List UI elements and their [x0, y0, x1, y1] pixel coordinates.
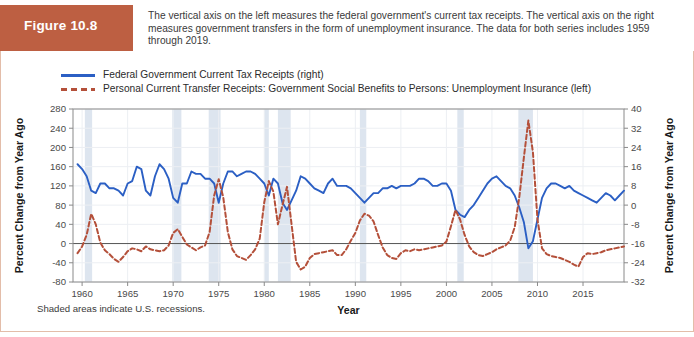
- y-axis-title-left: Percent Change from Year Ago: [13, 117, 25, 273]
- tick-label-right: 8: [631, 180, 636, 191]
- recession-band: [457, 109, 463, 282]
- tick-label-x: 1960: [71, 288, 92, 299]
- tick-label-left: 120: [50, 180, 66, 191]
- tick-label-right: 24: [631, 142, 642, 153]
- tick-label-left: 80: [55, 200, 66, 211]
- tick-label-right: -8: [631, 219, 640, 230]
- tick-label-x: 1975: [208, 288, 229, 299]
- figure-header: Figure 10.8 The vertical axis on the lef…: [0, 5, 694, 51]
- figure-number-label: Figure 10.8: [24, 18, 97, 33]
- figure-number-badge: Figure 10.8: [0, 5, 133, 51]
- tick-label-left: -40: [52, 257, 66, 268]
- y-axis-title-right: Percent Change from Year Ago: [663, 117, 675, 273]
- tick-label-right: 16: [631, 161, 642, 172]
- chart-plot: -80-4004080120160200240280-32-24-16-8081…: [1, 51, 694, 332]
- plot-frame: [73, 109, 624, 282]
- figure-caption: The vertical axis on the left measures t…: [148, 10, 682, 48]
- figure-card: Figure 10.8 The vertical axis on the lef…: [0, 5, 694, 332]
- tick-label-right: -32: [631, 276, 645, 287]
- tick-label-right: 0: [631, 200, 636, 211]
- tick-label-right: 40: [631, 103, 642, 114]
- tick-label-x: 1990: [345, 288, 366, 299]
- tick-label-left: 40: [55, 219, 66, 230]
- tick-label-x: 1970: [163, 288, 184, 299]
- tick-label-left: 240: [50, 123, 66, 134]
- tick-label-x: 1980: [254, 288, 275, 299]
- tick-label-left: 160: [50, 161, 66, 172]
- tick-label-x: 1965: [117, 288, 138, 299]
- tick-label-x: 2005: [481, 288, 502, 299]
- tick-label-right: 32: [631, 123, 642, 134]
- tick-label-x: 2010: [527, 288, 548, 299]
- figure-body: Federal Government Current Tax Receipts …: [0, 51, 694, 332]
- series-line-1: [78, 164, 624, 248]
- tick-label-left: 200: [50, 142, 66, 153]
- tick-label-x: 1995: [390, 288, 411, 299]
- x-axis-title: Year: [337, 304, 359, 316]
- tick-label-right: -16: [631, 238, 645, 249]
- tick-label-left: 280: [50, 103, 66, 114]
- tick-label-right: -24: [631, 257, 646, 268]
- tick-label-x: 2000: [436, 288, 457, 299]
- tick-label-left: -80: [52, 276, 66, 287]
- chart-footnote: Shaded areas indicate U.S. recessions.: [37, 303, 205, 314]
- recession-band: [360, 109, 366, 282]
- tick-label-x: 1985: [299, 288, 320, 299]
- series-line-2: [78, 121, 624, 270]
- recession-band: [85, 109, 92, 282]
- tick-label-x: 2015: [572, 288, 593, 299]
- tick-label-left: 0: [61, 238, 66, 249]
